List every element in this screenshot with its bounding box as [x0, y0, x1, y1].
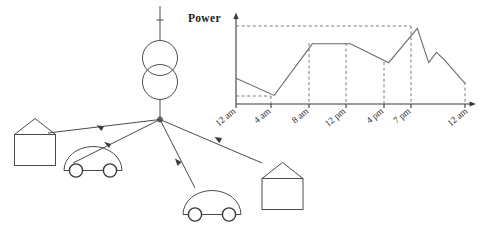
- figure-canvas: Power 12 am 4 am 8 am 12 pm 4 pm 7 pm 12…: [0, 0, 489, 235]
- tick-label-4am: 4 am: [252, 105, 273, 125]
- figure-root: Power 12 am 4 am 8 am 12 pm 4 pm 7 pm 12…: [0, 0, 489, 235]
- chart-title-label: Power: [188, 12, 221, 24]
- chart-x-axis-arrow-icon: [470, 101, 477, 106]
- transformer-coil-upper-icon: [143, 41, 178, 76]
- house-left-body: [15, 135, 56, 166]
- chart-y-axis-arrow-icon: [233, 13, 238, 20]
- chart-x-tick-labels: 12 am 4 am 8 am 12 pm 4 pm 7 pm 12 am: [213, 105, 470, 128]
- house-left-roof-icon: [15, 119, 56, 135]
- tick-label-12am-end: 12 am: [445, 105, 470, 128]
- car-right: [183, 191, 241, 222]
- feeder-line-car-right: [160, 120, 195, 189]
- power-demand-curve: [236, 28, 465, 95]
- tick-label-7pm: 7 pm: [391, 105, 412, 125]
- car-left-wheel-front-icon: [69, 164, 82, 177]
- tick-label-12am: 12 am: [213, 105, 238, 128]
- house-right-roof-icon: [262, 163, 303, 179]
- car-right-wheel-rear-icon: [222, 208, 235, 221]
- house-left: [15, 119, 56, 166]
- tick-label-8am: 8 am: [290, 105, 311, 125]
- house-right: [262, 163, 303, 210]
- car-right-wheel-front-icon: [188, 208, 201, 221]
- feeder-arrow-house-left-icon: [97, 125, 105, 131]
- feeder-arrow-house-right-icon: [215, 137, 223, 143]
- tick-label-12pm: 12 pm: [323, 105, 348, 128]
- chart-x-ticks: [236, 104, 465, 108]
- feeder-line-house-left: [48, 120, 160, 134]
- feeder-line-house-right: [160, 120, 262, 164]
- house-right-body: [262, 179, 303, 210]
- car-left: [64, 147, 122, 178]
- car-left-wheel-rear-icon: [103, 164, 116, 177]
- tick-label-4pm: 4 pm: [364, 105, 385, 125]
- power-demand-chart: Power 12 am 4 am 8 am 12 pm 4 pm 7 pm 12…: [188, 12, 476, 129]
